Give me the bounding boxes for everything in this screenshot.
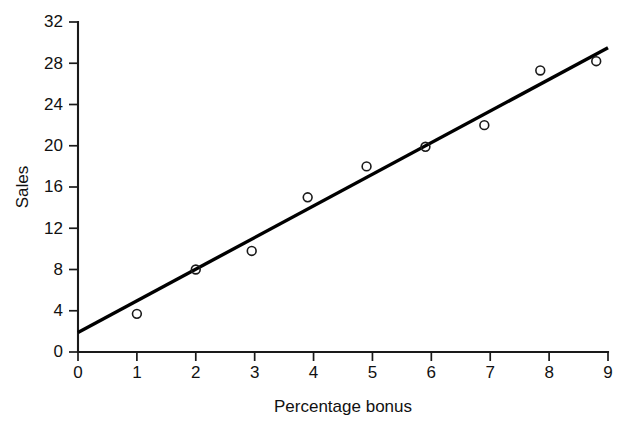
y-axis-tick-label: 0 — [54, 342, 63, 361]
x-axis-tick-label: 5 — [368, 363, 377, 382]
x-axis-tick-label: 3 — [250, 363, 259, 382]
x-axis-tick-label: 7 — [485, 363, 494, 382]
data-point-marker — [362, 162, 371, 171]
y-axis-tick-labels: 048121620242832 — [44, 12, 63, 361]
plot-canvas: 048121620242832 0123456789 Percentage bo… — [0, 0, 629, 426]
y-axis-tick-label: 32 — [44, 12, 63, 31]
data-point-marker — [536, 66, 545, 75]
axes-group — [78, 22, 608, 352]
x-axis-tick-label: 2 — [191, 363, 200, 382]
data-point-markers — [132, 57, 600, 318]
x-axis-tick-label: 6 — [427, 363, 436, 382]
scatter-plot-figure: 048121620242832 0123456789 Percentage bo… — [0, 0, 629, 426]
x-axis-tick-label: 9 — [603, 363, 612, 382]
x-axis-tick-label: 8 — [544, 363, 553, 382]
y-axis-tick-label: 24 — [44, 95, 63, 114]
x-axis-tick-label: 1 — [132, 363, 141, 382]
y-axis-tick-label: 16 — [44, 177, 63, 196]
y-axis-tick-label: 28 — [44, 54, 63, 73]
x-axis-tick-labels: 0123456789 — [73, 363, 612, 382]
x-axis-ticks — [78, 352, 608, 361]
data-point-marker — [592, 57, 601, 66]
data-point-marker — [303, 193, 312, 202]
x-axis-title: Percentage bonus — [274, 397, 412, 416]
y-axis-tick-label: 8 — [54, 260, 63, 279]
y-axis-tick-label: 12 — [44, 219, 63, 238]
y-axis-tick-label: 4 — [54, 301, 63, 320]
y-axis-ticks — [69, 22, 78, 352]
y-axis-tick-label: 20 — [44, 136, 63, 155]
y-axis-title: Sales — [13, 166, 32, 209]
data-point-marker — [247, 247, 256, 256]
data-point-marker — [132, 309, 141, 318]
regression-trendline — [78, 48, 608, 333]
x-axis-tick-label: 0 — [73, 363, 82, 382]
x-axis-tick-label: 4 — [309, 363, 318, 382]
data-point-marker — [480, 121, 489, 130]
